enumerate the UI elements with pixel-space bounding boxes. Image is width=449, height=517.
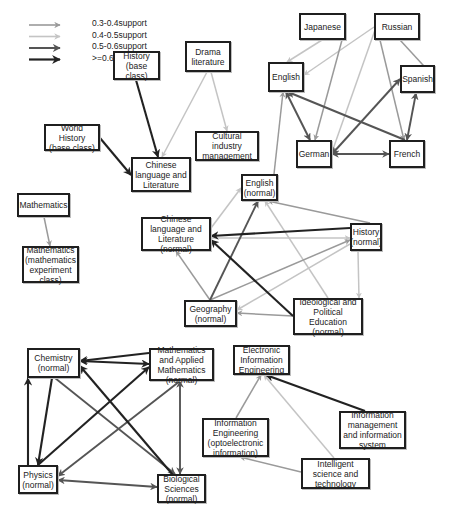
edge-chemistry_n-to-math_applied_n	[80, 361, 149, 364]
legend-label: 0.3-0.4support	[92, 18, 147, 28]
edge-japanese-to-english	[287, 40, 322, 62]
node-history-normal[interactable]: History (normal)	[350, 223, 382, 251]
node-chinese-language-literature[interactable]: Chinese language and Literature	[131, 157, 191, 192]
node-russian[interactable]: Russian	[374, 13, 420, 40]
edge-history_n-to-ideological_n	[358, 251, 359, 298]
edge-history_n-to-english_n	[268, 201, 370, 223]
edge-world_history-to-chinese	[100, 138, 131, 175]
edge-history_n-to-chinese_n	[211, 228, 350, 236]
edge-geography_n-to-history_n	[210, 240, 350, 300]
node-english[interactable]: English	[268, 62, 304, 92]
edge-chemistry_n-to-physics_n	[38, 378, 52, 465]
edge-info_eng-to-electronic	[236, 375, 261, 418]
edge-japanese-to-german	[315, 40, 342, 140]
node-cultural-industry-management[interactable]: Cultural industry management	[195, 131, 259, 161]
edge-english_n-to-english	[274, 92, 283, 174]
node-electronic-information-engineering[interactable]: Electronic Information Engineering	[233, 345, 290, 375]
edge-biology_n-to-physics_n	[58, 480, 157, 487]
node-chinese-language-literature-normal[interactable]: Chinese language and Literature (normal)	[141, 217, 211, 251]
node-mathematics[interactable]: Mathematics	[17, 193, 70, 217]
edge-geography_n-to-english_n	[210, 201, 258, 300]
legend-item-0304: 0.3-0.4support	[20, 18, 150, 30]
legend-item-0405: 0.4-0.5support	[20, 30, 150, 42]
edge-french-to-spanish	[407, 93, 416, 140]
node-english-normal[interactable]: English (normal)	[241, 174, 278, 201]
edge-geography_n-to-chinese_n	[176, 251, 210, 300]
node-information-engineering-optoelectronic[interactable]: Information Engineering (optoelectronic …	[202, 418, 269, 457]
node-japanese[interactable]: Japanese	[299, 13, 346, 40]
edge-chemistry_n-to-biology_n	[55, 378, 175, 474]
edge-history_base-to-chinese	[136, 80, 158, 157]
node-history-base-class[interactable]: History (base class)	[113, 51, 160, 80]
node-chemistry-normal[interactable]: Chemistry (normal)	[27, 348, 80, 378]
node-biological-sciences-normal[interactable]: Biological Sciences (normal)	[157, 474, 206, 503]
edge-info_mgmt-to-electronic	[266, 375, 365, 411]
edge-chinese_n-to-english_n	[211, 188, 241, 228]
edge-ideological_n-to-english_n	[265, 201, 328, 298]
legend-label: 0.5-0.6support	[92, 41, 147, 51]
node-world-history-base-class[interactable]: World History (base class)	[44, 124, 100, 151]
node-drama-literature[interactable]: Drama literature	[185, 41, 231, 72]
node-ideological-political-education-normal[interactable]: Ideological and Political Education (nor…	[293, 298, 363, 335]
node-intelligent-science-technology[interactable]: Intelligent science and technology	[301, 458, 370, 489]
node-mathematics-experiment-class[interactable]: Mathematics (mathematics experiment clas…	[22, 246, 79, 283]
legend-label: 0.4-0.5support	[92, 30, 147, 40]
edge-math_applied_n-to-chemistry_n	[80, 353, 149, 361]
edge-ideological_n-to-geography_n	[237, 313, 293, 316]
node-physics-normal[interactable]: Physics (normal)	[18, 465, 58, 494]
node-geography-normal[interactable]: Geography (normal)	[184, 300, 237, 327]
node-french[interactable]: French	[389, 140, 425, 168]
node-spanish[interactable]: Spanish	[400, 65, 435, 93]
node-german[interactable]: German	[296, 140, 332, 168]
edge-russian-to-german	[332, 30, 375, 152]
edge-drama-to-cultural	[211, 72, 227, 131]
node-information-management-system[interactable]: Information management and information s…	[339, 411, 406, 449]
edge-intelligent-to-info_eng	[240, 457, 301, 472]
edge-mathematics-to-math_exp	[44, 217, 50, 246]
node-mathematics-applied-mathematics-normal[interactable]: Mathematics and Applied Mathematics (nor…	[149, 348, 214, 381]
